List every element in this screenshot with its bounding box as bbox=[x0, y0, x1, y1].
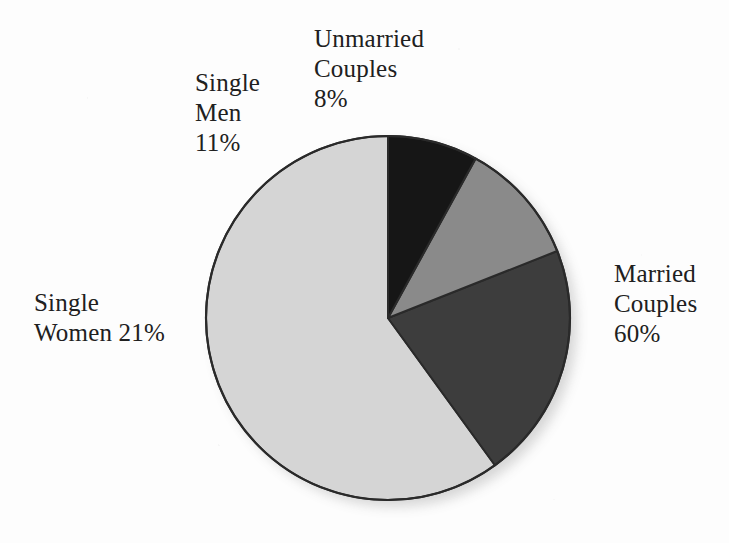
pie-label-unmarried-couples: Unmarried Couples 8% bbox=[314, 24, 424, 114]
pie-chart-figure: Unmarried Couples 8% Single Men 11% Sing… bbox=[0, 0, 729, 543]
pie-label-single-women: Single Women 21% bbox=[34, 288, 165, 348]
pie-label-married-couples: Married Couples 60% bbox=[614, 259, 697, 349]
pie-label-single-men: Single Men 11% bbox=[195, 68, 260, 158]
